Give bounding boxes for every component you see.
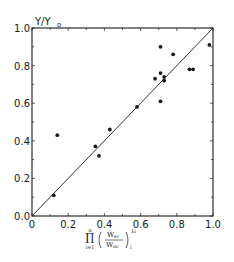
data-point: [153, 77, 157, 81]
x-tick-label: 0.4: [96, 219, 112, 230]
data-point: [52, 193, 56, 197]
svg-text:ei: ei: [114, 233, 119, 239]
y-tick-label: 0.2: [14, 173, 30, 184]
data-point: [159, 71, 163, 75]
x-axis: 00.20.40.60.81.0: [29, 219, 221, 230]
y-axis-label: Y/Y o: [34, 16, 61, 29]
reference-line: [32, 28, 213, 216]
svg-text:i=1: i=1: [86, 244, 95, 250]
data-point: [191, 67, 195, 71]
y-axis: 0.00.20.40.60.81.0: [14, 23, 30, 222]
svg-text:oc: oc: [113, 243, 119, 249]
data-point: [97, 154, 101, 158]
svg-text:λi: λi: [131, 228, 136, 234]
svg-text:Y/Y: Y/Y: [34, 16, 51, 27]
y-tick-label: 0.0: [14, 211, 30, 222]
x-tick-label: 0.8: [169, 219, 185, 230]
x-tick-label: 0.2: [60, 219, 76, 230]
scatter-chart: 00.20.40.60.81.0 0.00.20.40.60.81.0 Y/Y …: [0, 0, 234, 262]
x-axis-label: ∏ n i=1 W ei W oc λi i: [86, 227, 137, 250]
y-tick-label: 0.4: [14, 136, 30, 147]
plot-area: [32, 28, 213, 216]
y-tick-label: 0.6: [14, 98, 30, 109]
data-point: [108, 128, 112, 132]
data-point: [159, 45, 163, 49]
data-point: [159, 99, 163, 103]
svg-text:o: o: [57, 21, 61, 29]
data-point: [55, 133, 59, 137]
data-point: [207, 43, 211, 47]
y-tick-label: 1.0: [14, 23, 30, 34]
svg-text:i: i: [130, 244, 132, 250]
data-point: [171, 52, 175, 56]
data-point: [162, 79, 166, 83]
data-point: [93, 145, 97, 149]
data-point: [162, 75, 166, 79]
data-point: [188, 67, 192, 71]
y-tick-label: 0.8: [14, 61, 30, 72]
x-tick-label: 1.0: [205, 219, 221, 230]
data-point: [135, 105, 139, 109]
